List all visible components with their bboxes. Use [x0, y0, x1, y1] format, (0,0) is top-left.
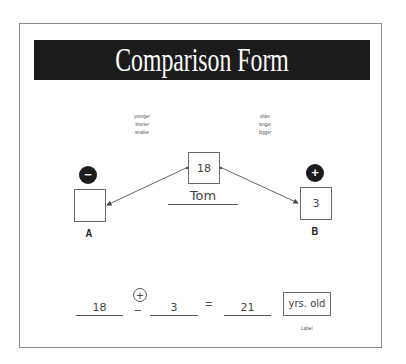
- operand1-field[interactable]: 18: [76, 301, 123, 316]
- unit-caption: Label: [301, 325, 312, 331]
- minus-icon: −: [79, 166, 97, 184]
- box-b-label: B: [312, 225, 319, 237]
- box-a-label: A: [86, 227, 93, 239]
- unit-label-box[interactable]: yrs. old: [283, 292, 331, 316]
- subject-name[interactable]: Tom: [168, 188, 238, 204]
- equals-sign: =: [205, 296, 213, 311]
- operand2-field[interactable]: 3: [150, 301, 198, 316]
- plus-icon: +: [306, 164, 324, 182]
- box-b-value[interactable]: 3: [300, 187, 332, 220]
- minus-operator-option[interactable]: −: [134, 303, 142, 318]
- plus-operator-option[interactable]: +: [133, 288, 147, 302]
- center-value-box[interactable]: 18: [188, 152, 220, 184]
- name-underline: [168, 204, 238, 205]
- box-a-value[interactable]: [74, 189, 106, 222]
- result-field[interactable]: 21: [224, 301, 271, 316]
